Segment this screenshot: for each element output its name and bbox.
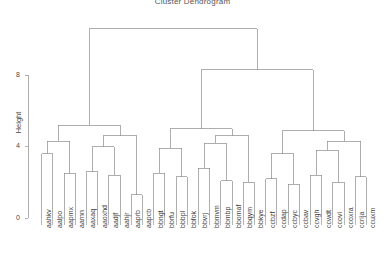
x-tick-label[interactable]: ccovi bbox=[336, 212, 343, 228]
x-tick-label[interactable]: aahkv bbox=[45, 209, 52, 228]
x-tick-label[interactable]: bbrfu bbox=[168, 212, 175, 228]
x-tick-label[interactable]: ccbav bbox=[302, 210, 309, 228]
x-tick-label[interactable]: aalpo bbox=[56, 211, 63, 228]
x-tick-label[interactable]: bbmbp bbox=[224, 207, 231, 228]
x-tick-label[interactable]: ccbyc bbox=[291, 210, 298, 228]
y-tick-label: 4 bbox=[4, 142, 20, 149]
y-tick-label: 8 bbox=[4, 71, 20, 78]
x-tick-label[interactable]: ccvgh bbox=[313, 210, 320, 228]
cluster-dendrogram-plot: Cluster Dendrogram Height aahkvaalpoaapm… bbox=[0, 0, 385, 273]
x-tick-label[interactable]: bbmvm bbox=[213, 205, 220, 228]
dendrogram-links bbox=[42, 29, 367, 218]
x-tick-label[interactable]: bbngt bbox=[157, 210, 164, 228]
x-tick-label[interactable]: bbbpl bbox=[179, 211, 186, 228]
x-tick-label[interactable]: ccuxm bbox=[369, 208, 376, 228]
x-tick-label[interactable]: aahjr bbox=[123, 212, 130, 228]
x-tick-label[interactable]: bbqym bbox=[246, 207, 253, 228]
x-tick-label[interactable]: bbfok bbox=[190, 211, 197, 228]
x-tick-label[interactable]: aapcb bbox=[145, 209, 152, 228]
x-tick-label[interactable]: bbvrj bbox=[201, 213, 208, 228]
x-tick-label[interactable]: aaxaq bbox=[89, 209, 96, 228]
x-tick-label[interactable]: aarnn bbox=[78, 210, 85, 228]
x-tick-label[interactable]: ccdap bbox=[280, 209, 287, 228]
x-tick-label[interactable]: ccbzf bbox=[269, 212, 276, 228]
x-tick-label[interactable]: bbomaf bbox=[235, 205, 242, 228]
x-tick-label[interactable]: aaoxhd bbox=[101, 205, 108, 228]
dendrogram-canvas bbox=[0, 0, 385, 273]
x-tick-label[interactable]: ccoxra bbox=[347, 207, 354, 228]
x-tick-label[interactable]: ccwdt bbox=[325, 210, 332, 228]
x-tick-label[interactable]: aadjf bbox=[112, 213, 119, 228]
x-tick-label[interactable]: bbkye bbox=[257, 209, 264, 228]
x-tick-label[interactable]: aapmx bbox=[67, 207, 74, 228]
x-tick-label[interactable]: ccrija bbox=[358, 212, 365, 228]
y-tick-label: 0 bbox=[4, 214, 20, 221]
x-tick-label[interactable]: aaprb bbox=[134, 210, 141, 228]
y-axis bbox=[25, 75, 28, 218]
